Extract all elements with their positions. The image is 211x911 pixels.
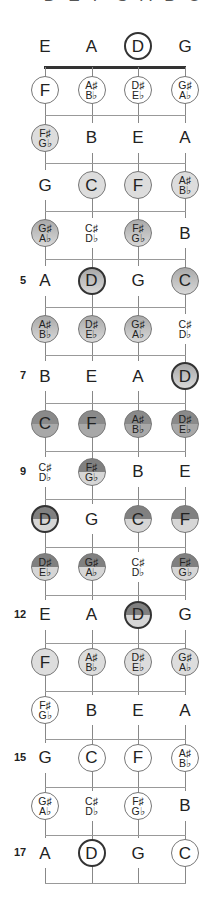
fret-number: 7 (20, 369, 26, 381)
note-marker: G (127, 266, 149, 296)
note-marker: F (31, 76, 59, 104)
fret-line (45, 163, 186, 164)
note-label: B (179, 797, 190, 814)
note-marker: A (34, 838, 56, 868)
clipped-label: D (40, 0, 60, 6)
note-marker: F♯G♭ (124, 792, 152, 820)
note-label: G (38, 177, 51, 194)
note-marker: A♯B♭ (31, 315, 59, 343)
note-marker: F♯G♭ (171, 553, 199, 581)
note-label: G (131, 845, 144, 862)
note-marker: G (34, 170, 56, 200)
note-marker: A (174, 695, 196, 725)
note-label: D (39, 511, 51, 528)
note-marker: F (124, 744, 152, 772)
note-label: F (40, 82, 50, 99)
note-marker: C♯D♭ (81, 791, 103, 821)
fret-line (45, 355, 186, 356)
note-marker: C♯D♭ (127, 552, 149, 582)
note-marker: G (34, 743, 56, 773)
note-marker: D (31, 505, 59, 533)
note-label: F (180, 511, 190, 528)
fret-line (45, 499, 186, 500)
fret-line (45, 835, 186, 836)
note-label: B (39, 368, 50, 385)
note-marker: D (78, 839, 106, 867)
fret-line (45, 883, 186, 884)
note-marker: C (171, 839, 199, 867)
clipped-label: F (88, 0, 108, 6)
note-marker: G (174, 600, 196, 630)
note-label: G♭ (85, 472, 98, 482)
fret-line (45, 643, 186, 644)
note-label: G♭ (131, 233, 144, 243)
note-label: D♭ (85, 233, 98, 243)
note-marker: A♯B♭ (78, 76, 106, 104)
note-label: E (179, 463, 190, 480)
note-label: C (39, 415, 51, 432)
note-label: A (179, 129, 190, 146)
note-label: A♭ (132, 329, 144, 339)
note-marker: G♯A♭ (78, 553, 106, 581)
note-label: G (38, 749, 51, 766)
note-label: E♭ (85, 329, 97, 339)
note-marker: F (171, 505, 199, 533)
note-marker: C (78, 171, 106, 199)
fret-line (45, 739, 186, 740)
fret-number: 17 (14, 846, 26, 858)
note-label: G♭ (38, 138, 51, 148)
note-label: C♯ (179, 319, 192, 329)
note-marker: E (34, 600, 56, 630)
note-marker: C♯D♭ (174, 314, 196, 344)
note-marker: E (127, 695, 149, 725)
note-marker: E (174, 457, 196, 487)
note-label: A (39, 272, 50, 289)
note-marker: G♯A♭ (31, 219, 59, 247)
note-label: B♭ (85, 662, 97, 672)
fret-line (45, 547, 186, 548)
note-marker: D (171, 362, 199, 390)
note-marker: E (81, 361, 103, 391)
note-label: C (132, 511, 144, 528)
note-label: D♯ (85, 319, 98, 329)
note-label: G (178, 38, 191, 55)
note-label: G♯ (131, 319, 144, 329)
note-label: G♯ (38, 796, 51, 806)
note-marker: G♯A♭ (171, 648, 199, 676)
note-marker: F♯G♭ (31, 696, 59, 724)
note-label: F (133, 177, 143, 194)
note-label: A (39, 845, 50, 862)
fret-line (45, 259, 186, 260)
note-marker: F♯G♭ (78, 458, 106, 486)
note-marker: B (127, 457, 149, 487)
note-label: A♭ (179, 662, 191, 672)
clipped-label: A (136, 0, 156, 6)
note-label: G♭ (178, 567, 191, 577)
note-marker: B (81, 695, 103, 725)
fret-line (45, 595, 186, 596)
note-marker: D♯E♭ (124, 76, 152, 104)
note-label: G (178, 606, 191, 623)
note-label: B♭ (132, 424, 144, 434)
clipped-label: B (160, 0, 180, 6)
note-marker: A♯B♭ (171, 171, 199, 199)
note-marker: E (34, 31, 56, 61)
note-marker: D (78, 267, 106, 295)
note-label: B (86, 702, 97, 719)
note-marker: A (174, 123, 196, 153)
note-label: G (85, 511, 98, 528)
note-marker: A (81, 31, 103, 61)
note-label: G (131, 272, 144, 289)
note-label: E (132, 702, 143, 719)
note-label: D (132, 38, 144, 55)
note-marker: G♯A♭ (124, 315, 152, 343)
fret-number: 5 (20, 274, 26, 286)
note-marker: F (31, 648, 59, 676)
note-label: A♭ (39, 233, 51, 243)
note-label: A♭ (85, 567, 97, 577)
note-label: C (85, 749, 97, 766)
note-label: B (86, 129, 97, 146)
fret-number: 15 (14, 751, 26, 763)
note-marker: C (124, 505, 152, 533)
note-label: F (40, 654, 50, 671)
